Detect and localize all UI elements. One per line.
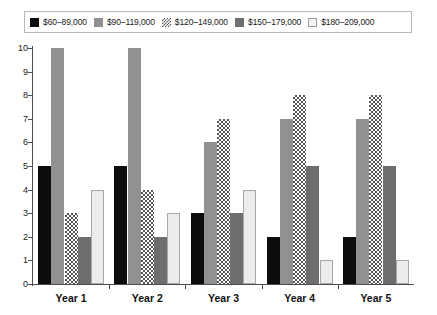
bar-3-2 (293, 95, 306, 284)
x-category-label-3: Year 4 (284, 292, 315, 304)
legend-label-1: $90–119,000 (107, 17, 155, 27)
legend-swatch-icon-2 (162, 18, 171, 27)
bar-4-0 (343, 237, 356, 284)
legend-item-4[interactable]: $180–209,000 (308, 17, 374, 27)
bar-4-2 (369, 95, 382, 284)
legend-label-2: $120–149,000 (175, 17, 228, 27)
bar-2-3 (230, 213, 243, 284)
y-tick-label-5: 5 (23, 162, 28, 171)
legend-item-2[interactable]: $120–149,000 (162, 17, 228, 27)
y-tick-mark-6 (28, 142, 32, 143)
bar-4-1 (356, 119, 369, 284)
bar-0-0 (38, 166, 51, 284)
x-category-label-2: Year 3 (208, 292, 239, 304)
legend-swatch-icon-1 (94, 18, 103, 27)
y-tick-mark-1 (28, 260, 32, 261)
y-tick-mark-3 (28, 213, 32, 214)
bar-1-1 (128, 48, 141, 284)
legend-label-0: $60–89,000 (43, 17, 87, 27)
bar-3-4 (320, 260, 333, 284)
x-tick-mark-0 (109, 284, 110, 289)
y-tick-label-2: 2 (23, 232, 28, 241)
bars-layer (33, 48, 414, 284)
x-tick-mark-3 (338, 284, 339, 289)
bar-1-2 (141, 190, 154, 284)
bar-0-1 (51, 48, 64, 284)
y-tick-mark-5 (28, 166, 32, 167)
bar-0-2 (65, 213, 78, 284)
y-tick-label-10: 10 (18, 44, 28, 53)
y-tick-label-1: 1 (23, 256, 28, 265)
y-tick-label-4: 4 (23, 185, 28, 194)
y-tick-mark-10 (28, 48, 32, 49)
x-tick-mark-1 (185, 284, 186, 289)
legend-swatch-icon-3 (235, 18, 244, 27)
y-tick-label-6: 6 (23, 138, 28, 147)
x-tick-mark-2 (262, 284, 263, 289)
bar-1-3 (154, 237, 167, 284)
bar-3-3 (306, 166, 319, 284)
y-tick-mark-4 (28, 190, 32, 191)
legend-label-4: $180–209,000 (321, 17, 374, 27)
bar-2-4 (243, 190, 256, 284)
y-tick-mark-2 (28, 237, 32, 238)
legend-item-0[interactable]: $60–89,000 (30, 17, 87, 27)
legend-swatch-icon-4 (308, 18, 317, 27)
bar-0-3 (78, 237, 91, 284)
y-tick-mark-9 (28, 72, 32, 73)
bar-2-1 (204, 142, 217, 284)
bar-1-0 (114, 166, 127, 284)
x-axis-line (32, 284, 414, 285)
y-tick-label-8: 8 (23, 91, 28, 100)
legend-item-1[interactable]: $90–119,000 (94, 17, 155, 27)
bar-3-0 (267, 237, 280, 284)
y-tick-label-7: 7 (23, 114, 28, 123)
bar-chart: $60–89,000$90–119,000$120–149,000$150–17… (0, 0, 437, 315)
bar-4-3 (383, 166, 396, 284)
x-category-label-1: Year 2 (132, 292, 163, 304)
y-tick-mark-0 (28, 284, 32, 285)
x-category-label-0: Year 1 (56, 292, 87, 304)
x-category-label-4: Year 5 (360, 292, 391, 304)
bar-2-2 (217, 119, 230, 284)
y-tick-label-3: 3 (23, 209, 28, 218)
legend-item-3[interactable]: $150–179,000 (235, 17, 301, 27)
y-tick-label-9: 9 (23, 67, 28, 76)
bar-0-4 (91, 190, 104, 284)
bar-4-4 (396, 260, 409, 284)
y-tick-label-0: 0 (23, 280, 28, 289)
y-tick-mark-8 (28, 95, 32, 96)
legend-label-3: $150–179,000 (248, 17, 301, 27)
y-tick-mark-7 (28, 119, 32, 120)
chart-legend: $60–89,000$90–119,000$120–149,000$150–17… (24, 11, 412, 33)
bar-3-1 (280, 119, 293, 284)
bar-2-0 (191, 213, 204, 284)
bar-1-4 (167, 213, 180, 284)
legend-swatch-icon-0 (30, 18, 39, 27)
